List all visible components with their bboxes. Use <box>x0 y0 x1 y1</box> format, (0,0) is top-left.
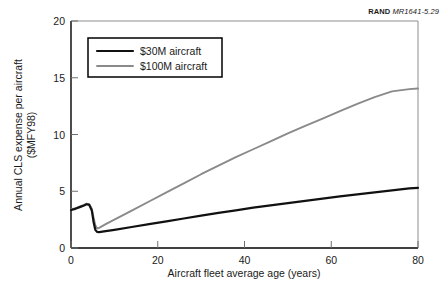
y-axis-ticks: 05101520 <box>53 15 78 254</box>
y-tick-label: 15 <box>53 72 65 84</box>
y-axis-title-line2: ($MFY98) <box>25 112 37 159</box>
x-tick-label: 80 <box>412 254 424 266</box>
y-tick-label: 5 <box>59 185 65 197</box>
y-tick-label: 20 <box>53 15 65 27</box>
series-line <box>71 89 418 229</box>
x-tick-label: 0 <box>68 254 74 266</box>
x-tick-label: 60 <box>325 254 337 266</box>
series-line <box>71 188 418 232</box>
y-tick-label: 10 <box>53 129 65 141</box>
x-axis-ticks: 020406080 <box>68 241 424 266</box>
chart-legend[interactable]: $30M aircraft $100M aircraft <box>88 38 222 77</box>
legend-label-100m: $100M aircraft <box>140 60 207 72</box>
figure-container: RAND MR1641-5.29 05101520 020406080 $30M… <box>0 0 445 293</box>
legend-label-30m: $30M aircraft <box>140 45 201 57</box>
x-axis-title: Aircraft fleet average age (years) <box>168 267 321 279</box>
x-tick-label: 20 <box>152 254 164 266</box>
line-chart: 05101520 020406080 $30M aircraft $100M a… <box>0 0 445 293</box>
x-tick-label: 40 <box>239 254 251 266</box>
y-tick-label: 0 <box>59 242 65 254</box>
data-series-group <box>71 89 418 233</box>
y-axis-title-line1: Annual CLS expense per aircraft <box>12 59 24 211</box>
